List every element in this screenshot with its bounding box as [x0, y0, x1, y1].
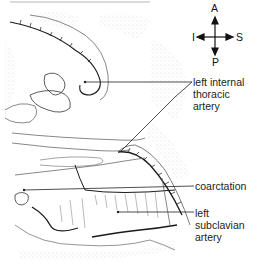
label-left-subclavian-artery: left subclavian artery: [195, 207, 245, 243]
compass-superior: S: [236, 32, 243, 43]
anatomy-diagram: A P I S left internal thoracic artery co…: [0, 0, 260, 271]
label-coarctation: coarctation: [195, 180, 246, 192]
compass-posterior: P: [212, 57, 219, 68]
label-left-internal-thoracic-artery: left internal thoracic artery: [193, 76, 244, 112]
compass-anterior: A: [211, 3, 218, 14]
orientation-compass: [197, 17, 233, 55]
compass-inferior: I: [192, 32, 195, 43]
